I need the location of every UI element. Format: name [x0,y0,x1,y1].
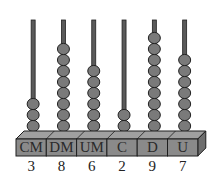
abacus-diagram: CMDMUMCDU 386297 [0,0,215,182]
beads [27,32,191,131]
bead [148,32,160,43]
place-value-label: UM [80,139,104,155]
bead [179,120,191,131]
place-value-label: D [147,139,158,155]
bead [88,98,100,109]
bead [148,87,160,98]
bead [57,98,69,109]
bead [118,109,130,120]
bead [148,109,160,120]
digit-value: 7 [179,158,187,174]
bead [57,43,69,54]
place-value-label: U [177,139,188,155]
bead [148,120,160,131]
bead [118,120,130,131]
bead [148,54,160,65]
place-value-label: CM [19,139,42,155]
bead [57,87,69,98]
rods [31,20,187,135]
bead [88,65,100,76]
bead [148,98,160,109]
digit-value: 2 [118,158,126,174]
bead [179,65,191,76]
bead [88,87,100,98]
bead [27,109,39,120]
bead [179,98,191,109]
bead [88,76,100,87]
digit-value: 3 [27,158,35,174]
bead [57,109,69,120]
digit-value: 8 [58,158,66,174]
digit-value: 9 [149,158,157,174]
place-value-label: C [117,139,127,155]
bead [88,109,100,120]
bead [179,54,191,65]
bead [148,65,160,76]
bead [179,109,191,120]
place-value-label: DM [49,139,73,155]
bead [57,76,69,87]
digit-value: 6 [88,158,96,174]
bead [179,87,191,98]
digit-values: 386297 [27,158,187,174]
bead [57,120,69,131]
bead [148,43,160,54]
bead [179,76,191,87]
bead [88,120,100,131]
bead [27,120,39,131]
bead [57,65,69,76]
bead [27,98,39,109]
bead [148,76,160,87]
bead [57,54,69,65]
